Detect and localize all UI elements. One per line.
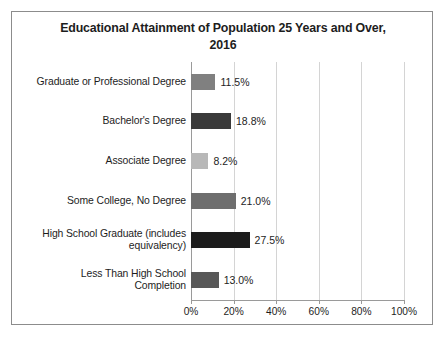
category-label: Bachelor's Degree: [30, 102, 186, 142]
x-tick-label: 40%: [266, 306, 286, 317]
x-tick-mark: [319, 300, 320, 304]
x-tick-mark: [234, 300, 235, 304]
bar-row: 18.8%: [191, 102, 404, 142]
category-label-text: Less Than High School Completion: [30, 268, 186, 293]
category-label-text: Bachelor's Degree: [103, 115, 186, 128]
chart-title: Educational Attainment of Population 25 …: [30, 20, 416, 54]
bar[interactable]: [191, 272, 219, 288]
category-label-text: High School Graduate (includes equivalen…: [30, 228, 186, 253]
category-label-text: Associate Degree: [106, 155, 186, 168]
x-tick-label: 60%: [309, 306, 329, 317]
x-tick-label: 100%: [391, 306, 417, 317]
x-tick-label: 0%: [184, 306, 199, 317]
x-tick-mark: [404, 300, 405, 304]
bar[interactable]: [191, 193, 236, 209]
bar-value-label: 18.8%: [236, 115, 266, 127]
bar-value-label: 11.5%: [220, 76, 249, 88]
chart-container: Educational Attainment of Population 25 …: [11, 11, 433, 325]
chart-title-line-1: Educational Attainment of Population 25 …: [30, 20, 416, 37]
x-axis-ticks: 0%20%40%60%80%100%: [191, 300, 404, 322]
x-tick-label: 20%: [223, 306, 243, 317]
bar-value-label: 13.0%: [224, 274, 254, 286]
bar-row: 21.0%: [191, 181, 404, 221]
chart-title-line-2: 2016: [30, 37, 416, 54]
category-label-text: Graduate or Professional Degree: [37, 76, 186, 89]
bar-value-label: 21.0%: [241, 195, 271, 207]
x-tick-mark: [361, 300, 362, 304]
bar[interactable]: [191, 232, 250, 248]
plot-area: 11.5%18.8%8.2%21.0%27.5%13.0%: [191, 62, 404, 300]
bar[interactable]: [191, 113, 231, 129]
category-label: Less Than High School Completion: [30, 260, 186, 300]
category-label-text: Some College, No Degree: [67, 195, 186, 208]
gridline: [404, 62, 405, 300]
category-axis-labels: Graduate or Professional DegreeBachelor'…: [30, 62, 186, 300]
bar-series: 11.5%18.8%8.2%21.0%27.5%13.0%: [191, 62, 404, 300]
bar[interactable]: [191, 74, 215, 90]
x-tick-mark: [276, 300, 277, 304]
x-tick-mark: [191, 300, 192, 304]
x-tick-label: 80%: [351, 306, 371, 317]
category-label: Associate Degree: [30, 141, 186, 181]
category-label: Some College, No Degree: [30, 181, 186, 221]
bar-value-label: 27.5%: [255, 234, 285, 246]
bar-row: 11.5%: [191, 62, 404, 102]
bar-value-label: 8.2%: [213, 155, 237, 167]
bar-row: 27.5%: [191, 221, 404, 261]
category-label: Graduate or Professional Degree: [30, 62, 186, 102]
bar-row: 8.2%: [191, 141, 404, 181]
category-label: High School Graduate (includes equivalen…: [30, 221, 186, 261]
bar[interactable]: [191, 153, 208, 169]
bar-row: 13.0%: [191, 260, 404, 300]
